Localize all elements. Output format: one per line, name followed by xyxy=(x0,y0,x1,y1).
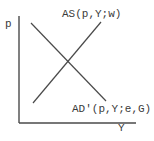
x-axis-label: Y xyxy=(118,122,125,134)
y-axis-label: p xyxy=(5,18,12,30)
as-curve xyxy=(33,22,101,103)
diagram-canvas: p Y AS(p,Y;w) AD'(p,Y;e,G) xyxy=(0,0,154,141)
as-curve-label: AS(p,Y;w) xyxy=(62,8,121,20)
ad-curve-label: AD'(p,Y;e,G) xyxy=(72,103,151,115)
ad-curve xyxy=(31,23,106,101)
